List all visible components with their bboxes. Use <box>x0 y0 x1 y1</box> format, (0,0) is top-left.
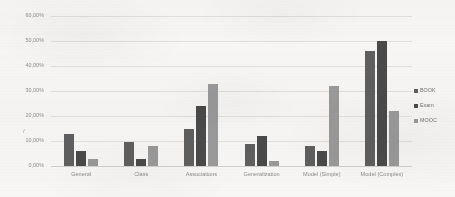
bar-model-complex-mooc <box>389 111 399 166</box>
bar-group-general <box>51 16 111 166</box>
y-axis-tick-label: 20,00% <box>0 113 44 118</box>
bar-general-mooc <box>88 159 98 167</box>
bar-model-complex-exam <box>377 41 387 166</box>
y-axis-tick-label: 40,00% <box>0 63 44 68</box>
bar-generalization-exam <box>257 136 267 166</box>
x-axis-baseline <box>51 166 412 167</box>
legend-label: Exam <box>420 103 434 108</box>
bar-associations-mooc <box>208 84 218 167</box>
legend-item-exam[interactable]: Exam <box>414 103 437 109</box>
y-axis-tick-label: 50,00% <box>0 38 44 43</box>
bar-class-book <box>124 142 134 166</box>
x-axis-label-model-complex: Model (Complex) <box>352 172 412 178</box>
bar-general-book <box>64 134 74 167</box>
chart-screenshot: 60,00% 50,00% 40,00% 30,00% 20,00% 10,00… <box>0 0 455 197</box>
x-axis-label-associations: Associations <box>171 172 231 178</box>
bar-general-exam <box>76 151 86 166</box>
legend-item-mooc[interactable]: MOOC <box>414 118 437 124</box>
stray-slash-annotation: / <box>23 128 25 134</box>
bar-group-associations <box>171 16 231 166</box>
bar-chart-plot-area: 60,00% 50,00% 40,00% 30,00% 20,00% 10,00… <box>0 0 455 197</box>
bar-associations-exam <box>196 106 206 166</box>
y-axis-tick-label: 0,00% <box>0 163 44 168</box>
legend-swatch-icon <box>414 89 418 93</box>
chart-legend: BOOK Exam MOOC <box>414 88 437 124</box>
legend-item-book[interactable]: BOOK <box>414 88 437 94</box>
legend-label: MOOC <box>420 118 437 123</box>
bar-group-model-complex <box>352 16 412 166</box>
x-axis-label-model-simple: Model (Simple) <box>292 172 352 178</box>
y-axis-tick-label: 60,00% <box>0 13 44 18</box>
x-axis-label-general: General <box>51 172 111 178</box>
legend-swatch-icon <box>414 104 418 108</box>
bars-layer <box>51 16 412 166</box>
bar-group-class <box>111 16 171 166</box>
legend-label: BOOK <box>420 88 436 93</box>
bar-associations-book <box>184 129 194 167</box>
bar-model-simple-mooc <box>329 86 339 166</box>
bar-model-complex-book <box>365 51 375 166</box>
bar-class-exam <box>136 159 146 167</box>
x-axis-label-generalization: Generalization <box>232 172 292 178</box>
x-axis-label-class: Class <box>111 172 171 178</box>
y-axis-tick-label: 10,00% <box>0 138 44 143</box>
bar-generalization-book <box>245 144 255 167</box>
bar-model-simple-exam <box>317 151 327 166</box>
bar-class-mooc <box>148 146 158 166</box>
y-axis-tick-label: 30,00% <box>0 88 44 93</box>
bar-group-generalization <box>232 16 292 166</box>
bar-group-model-simple <box>292 16 352 166</box>
legend-swatch-icon <box>414 119 418 123</box>
bar-generalization-mooc <box>269 161 279 166</box>
bar-model-simple-book <box>305 146 315 166</box>
